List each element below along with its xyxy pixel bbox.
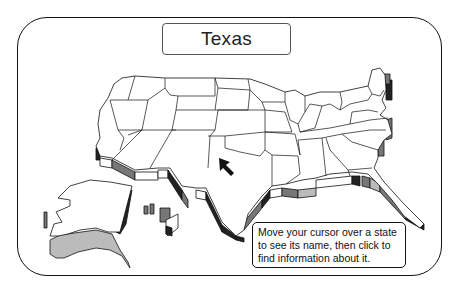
instructions-box: Move your cursor over a state to see its… [252,222,406,268]
hawaii[interactable] [144,204,178,236]
alaska[interactable] [44,180,132,268]
instructions-text: Move your cursor over a state to see its… [258,226,401,265]
